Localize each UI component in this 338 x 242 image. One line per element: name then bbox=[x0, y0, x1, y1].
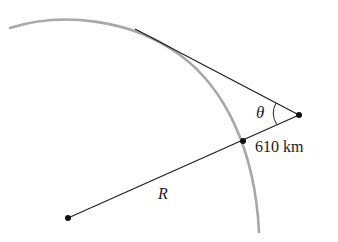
radius-label: R bbox=[158, 185, 168, 203]
observer-point bbox=[296, 112, 302, 118]
tangent-line bbox=[135, 29, 299, 115]
altitude-label: 610 km bbox=[255, 138, 303, 156]
earth-surface-arc bbox=[10, 20, 259, 232]
radius-line bbox=[68, 115, 299, 218]
angle-label: θ bbox=[256, 103, 264, 123]
center-point bbox=[65, 215, 71, 221]
diagram-svg bbox=[0, 0, 338, 242]
diagram-canvas: θ 610 km R bbox=[0, 0, 338, 242]
surface-point bbox=[240, 138, 246, 144]
angle-arc bbox=[273, 103, 277, 125]
